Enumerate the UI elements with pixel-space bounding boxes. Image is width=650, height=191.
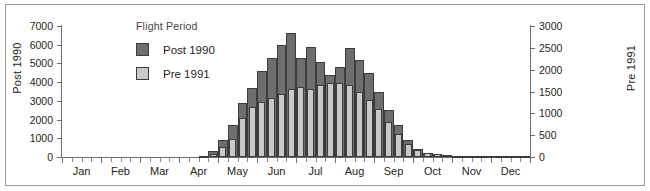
right-tick-label: 500	[539, 130, 557, 141]
x-tick	[491, 158, 492, 163]
x-tick	[208, 158, 209, 162]
x-tick	[72, 158, 73, 162]
left-tick	[57, 157, 61, 158]
x-tick	[472, 158, 473, 162]
x-tick	[325, 158, 326, 162]
x-tick	[267, 158, 268, 162]
left-tick	[57, 120, 61, 121]
right-tick	[531, 135, 535, 136]
x-tick	[403, 158, 404, 162]
bar-pre-1991	[336, 83, 343, 157]
x-tick-label-feb: Feb	[101, 166, 141, 177]
legend: Flight Period Post 1990 Pre 1991	[136, 20, 215, 91]
bar-pre-1991	[492, 156, 499, 158]
x-tick	[179, 158, 180, 163]
x-tick	[257, 158, 258, 163]
left-tick	[57, 138, 61, 139]
x-tick	[520, 158, 521, 162]
bar-pre-1991	[522, 156, 529, 158]
legend-label-post-1990: Post 1990	[163, 44, 215, 56]
x-tick	[345, 158, 346, 162]
right-tick-label: 3000	[539, 21, 562, 32]
bar-pre-1991	[512, 156, 519, 158]
legend-title: Flight Period	[136, 20, 215, 32]
x-tick	[150, 158, 151, 162]
left-tick	[57, 45, 61, 46]
x-tick-label-jul: Jul	[296, 166, 336, 177]
left-tick-label: 2000	[30, 115, 53, 126]
x-tick	[286, 158, 287, 162]
x-tick	[394, 158, 395, 162]
x-tick	[91, 158, 92, 162]
right-tick	[531, 92, 535, 93]
bar-pre-1991	[385, 122, 392, 157]
left-tick-label: 4000	[30, 77, 53, 88]
bar-pre-1991	[288, 89, 295, 157]
bar-pre-1991	[249, 107, 256, 157]
right-tick-label: 2500	[539, 43, 562, 54]
x-tick	[130, 158, 131, 162]
right-tick-label: 1500	[539, 87, 562, 98]
bar-pre-1991	[346, 85, 353, 157]
bar-pre-1991	[258, 102, 265, 157]
x-tick	[218, 158, 219, 163]
x-tick	[511, 158, 512, 162]
bar-pre-1991	[356, 92, 363, 158]
x-tick	[316, 158, 317, 162]
x-tick-label-sep: Sep	[374, 166, 414, 177]
x-tick-label-nov: Nov	[452, 166, 492, 177]
x-tick	[160, 158, 161, 162]
legend-item-pre-1991: Pre 1991	[136, 67, 215, 80]
legend-swatch-post-1990	[136, 43, 149, 56]
left-tick-label: 0	[47, 152, 53, 163]
left-tick	[57, 63, 61, 64]
bar-pre-1991	[444, 155, 451, 157]
x-tick-label-jun: Jun	[257, 166, 297, 177]
x-tick-label-aug: Aug	[335, 166, 375, 177]
x-tick-label-dec: Dec	[491, 166, 531, 177]
bar-pre-1991	[268, 98, 275, 157]
x-tick	[121, 158, 122, 162]
right-tick	[531, 48, 535, 49]
left-tick	[57, 26, 61, 27]
x-tick-label-mar: Mar	[140, 166, 180, 177]
legend-item-post-1990: Post 1990	[136, 43, 215, 56]
x-tick	[306, 158, 307, 162]
left-tick	[57, 82, 61, 83]
x-tick	[247, 158, 248, 162]
bar-pre-1991	[239, 118, 246, 157]
bar-pre-1991	[434, 154, 441, 157]
x-tick	[238, 158, 239, 162]
left-tick-label: 7000	[30, 21, 53, 32]
x-tick	[423, 158, 424, 162]
x-tick	[433, 158, 434, 162]
bar-pre-1991	[229, 139, 236, 157]
right-tick-label: 1000	[539, 108, 562, 119]
x-tick	[140, 158, 141, 163]
right-tick	[531, 157, 535, 158]
bar-pre-1991	[366, 100, 373, 157]
x-tick	[101, 158, 102, 163]
bar-pre-1991	[200, 156, 207, 158]
chart-figure: Post 1990 Pre 1991 010002000300040005000…	[0, 0, 650, 191]
x-tick	[169, 158, 170, 162]
x-tick	[530, 158, 531, 163]
right-tick-label: 2000	[539, 65, 562, 76]
left-axis-title: Post 1990	[11, 23, 23, 113]
x-tick	[442, 158, 443, 162]
bar-pre-1991	[414, 150, 421, 157]
x-tick	[452, 158, 453, 163]
right-tick	[531, 26, 535, 27]
x-tick	[501, 158, 502, 162]
bar-pre-1991	[453, 156, 460, 158]
x-tick	[355, 158, 356, 162]
x-tick	[199, 158, 200, 162]
bar-pre-1991	[297, 87, 304, 157]
x-tick	[111, 158, 112, 162]
bar-pre-1991	[375, 109, 382, 157]
x-tick	[277, 158, 278, 162]
x-tick	[481, 158, 482, 162]
bar-pre-1991	[395, 134, 402, 157]
left-tick	[57, 101, 61, 102]
bar-pre-1991	[405, 144, 412, 157]
